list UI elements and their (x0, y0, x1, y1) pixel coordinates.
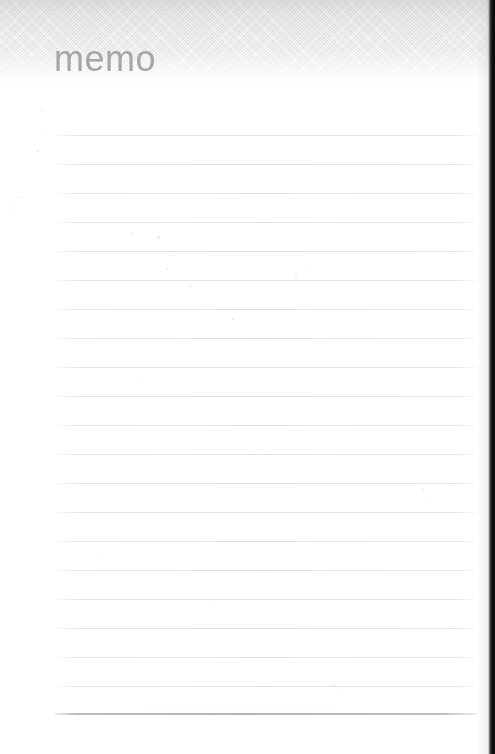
rule-line (55, 512, 477, 513)
rule-line (55, 541, 477, 542)
rule-line (55, 164, 477, 165)
scan-edge-gradient (477, 0, 487, 754)
paper-speck (37, 150, 39, 152)
paper-speck (13, 207, 15, 209)
rule-line (55, 599, 477, 600)
ruled-lines (0, 0, 495, 754)
paper-speck (44, 130, 45, 131)
paper-speck (41, 110, 43, 112)
rule-line (55, 280, 477, 281)
paper-speck (170, 254, 172, 256)
rule-line (55, 338, 477, 339)
paper-speck (140, 382, 141, 383)
paper-speck (422, 489, 424, 491)
paper-speck (333, 684, 335, 686)
rule-line (55, 454, 477, 455)
paper-speck (342, 690, 343, 691)
paper-speck (303, 625, 305, 627)
rule-line (55, 193, 477, 194)
paper-speck (157, 236, 160, 239)
memo-page: memo (0, 0, 495, 754)
paper-speck (452, 398, 453, 399)
paper-speck (428, 503, 429, 504)
rule-line (55, 570, 477, 571)
paper-speck (232, 318, 234, 320)
paper-speck (306, 269, 307, 270)
rule-line (55, 425, 477, 426)
rule-line (55, 367, 477, 368)
paper-speck (212, 600, 213, 601)
rule-line (55, 135, 477, 136)
paper-speck (189, 285, 191, 287)
rule-line (55, 309, 477, 310)
rule-line (55, 483, 477, 484)
paper-speck (96, 557, 97, 558)
paper-speck (131, 233, 133, 235)
paper-speck (166, 268, 168, 270)
rule-line (55, 396, 477, 397)
page-title: memo (54, 38, 156, 80)
rule-line (55, 222, 477, 223)
paper-speck (20, 196, 22, 198)
rule-line (55, 686, 477, 687)
rule-line (55, 713, 477, 715)
scan-edge-dark-strip (487, 0, 495, 754)
paper-grain (0, 0, 495, 754)
rule-line (55, 251, 477, 252)
rule-line (55, 628, 477, 629)
paper-speck (295, 277, 297, 279)
rule-line (55, 657, 477, 658)
